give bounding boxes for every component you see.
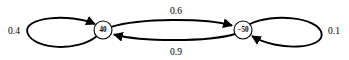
state-left-label: 40 — [99, 26, 107, 34]
graph-canvas: 40 −50 0.4 0.6 0.9 0.1 — [0, 0, 349, 60]
self-loop-right-label: 0.1 — [328, 25, 340, 36]
right-to-left-label: 0.9 — [170, 46, 182, 57]
self-loop-right-edge — [250, 18, 322, 47]
node-state-left[interactable]: 40 — [94, 21, 112, 39]
left-to-right-label: 0.6 — [170, 5, 182, 16]
state-diagram: 40 −50 0.4 0.6 0.9 0.1 — [0, 0, 349, 60]
node-state-right[interactable]: −50 — [234, 21, 252, 39]
right-to-left-edge — [114, 34, 235, 40]
state-right-label: −50 — [237, 26, 249, 34]
self-loop-left-edge — [27, 18, 97, 47]
left-to-right-edge — [111, 20, 232, 27]
self-loop-left-label: 0.4 — [8, 25, 20, 36]
